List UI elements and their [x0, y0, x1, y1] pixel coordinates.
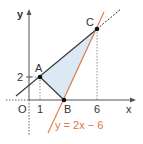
y-axis-label: y [17, 8, 24, 20]
y-axis-arrow-icon [27, 9, 32, 15]
tick-label-x-6: 6 [94, 103, 100, 115]
coordinate-diagram: y x O 1 6 2 A B C y = 2x − 6 [0, 0, 143, 144]
point-b [62, 98, 67, 103]
point-label-a: A [35, 62, 43, 74]
tick-label-x-1: 1 [37, 103, 43, 115]
point-c [95, 27, 100, 32]
x-axis-arrow-icon [130, 98, 136, 103]
x-axis-label: x [126, 103, 132, 115]
point-label-b: B [64, 103, 71, 115]
line-equation-label: y = 2x − 6 [55, 119, 103, 131]
tick-label-y-2: 2 [17, 71, 23, 83]
point-a [38, 75, 43, 80]
origin-label: O [18, 103, 27, 115]
point-label-c: C [86, 16, 94, 28]
